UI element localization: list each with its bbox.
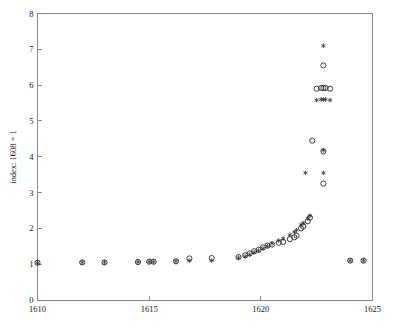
plot-frame bbox=[38, 14, 373, 301]
data-markers bbox=[35, 43, 366, 265]
data-point-star bbox=[252, 250, 256, 255]
y-tick-label: 6 bbox=[29, 80, 33, 90]
data-point-star bbox=[328, 98, 332, 103]
x-tick-label: 1610 bbox=[29, 304, 46, 314]
data-point-star bbox=[248, 252, 252, 257]
data-point-star bbox=[321, 43, 325, 48]
y-tick-label: 7 bbox=[29, 44, 33, 54]
y-tick-label: 3 bbox=[29, 188, 33, 198]
data-point-star bbox=[324, 97, 328, 102]
x-tick-label: 1615 bbox=[141, 304, 158, 314]
x-tick-label: 1625 bbox=[364, 304, 381, 314]
x-axis-ticks: 1610161516201625 bbox=[29, 296, 381, 314]
y-tick-label: 1 bbox=[29, 259, 33, 269]
data-point-star bbox=[243, 254, 247, 259]
data-point-star bbox=[315, 98, 319, 103]
y-tick-label: 5 bbox=[29, 116, 33, 126]
x-tick-label: 1620 bbox=[252, 304, 269, 314]
chart-container: 012345678 1610161516201625 index: 1608 =… bbox=[0, 0, 402, 328]
data-point-circle bbox=[321, 63, 326, 68]
data-point-circle bbox=[310, 138, 315, 143]
y-axis-ticks: 012345678 bbox=[29, 9, 41, 306]
data-point-star bbox=[321, 148, 325, 153]
data-point-star bbox=[321, 170, 325, 175]
data-point-star bbox=[303, 170, 307, 175]
y-tick-label: 4 bbox=[29, 152, 34, 162]
data-point-circle bbox=[321, 181, 326, 186]
data-point-star bbox=[321, 97, 325, 102]
y-axis-label: index: 1608 = 1 bbox=[8, 130, 18, 184]
data-point-star bbox=[319, 97, 323, 102]
scatter-plot: 012345678 1610161516201625 index: 1608 =… bbox=[0, 0, 402, 328]
y-tick-label: 2 bbox=[29, 223, 33, 233]
y-tick-label: 8 bbox=[29, 9, 33, 19]
